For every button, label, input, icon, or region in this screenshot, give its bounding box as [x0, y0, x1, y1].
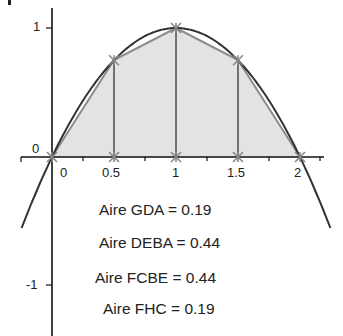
- edge-artifact: [8, 0, 11, 5]
- area-fhc: Aire FHC = 0.19: [103, 300, 215, 318]
- area-fcbe: Aire FCBE = 0.44: [95, 269, 216, 287]
- x-label-1.5: 1.5: [227, 165, 245, 180]
- y-label-0: 0: [32, 141, 39, 156]
- area-deba: Aire DEBA = 0.44: [99, 234, 220, 252]
- x-label-1: 1: [172, 165, 179, 180]
- x-label-0.5: 0.5: [102, 165, 120, 180]
- x-label-0: 0: [60, 165, 67, 180]
- y-label-1: 1: [33, 19, 40, 34]
- y-label-minus-1: -1: [26, 277, 38, 292]
- area-gda: Aire GDA = 0.19: [99, 201, 211, 219]
- x-label-2: 2: [294, 165, 301, 180]
